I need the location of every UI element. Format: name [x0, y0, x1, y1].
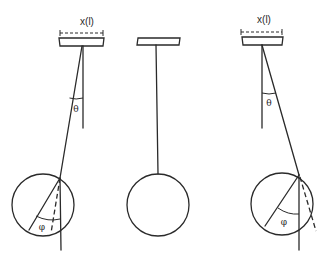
phi-label: φ	[39, 222, 45, 232]
pendulum-bob	[127, 174, 189, 236]
support-bar	[137, 38, 180, 45]
theta-label: θ	[266, 98, 271, 108]
dimension-label: x(l)	[257, 14, 271, 25]
support-bar	[242, 37, 283, 45]
phi-arc	[278, 208, 299, 214]
phi-arc	[36, 216, 60, 220]
vertical-through-bob	[60, 178, 61, 250]
dimension-line	[241, 29, 282, 35]
right-pendulum: x(l) θ φ	[241, 14, 316, 250]
theta-arc	[262, 93, 276, 94]
middle-pendulum	[127, 38, 189, 236]
dimension-line	[60, 30, 103, 36]
left-pendulum: x(l) θ φ	[12, 16, 104, 250]
phi-label: φ	[281, 217, 287, 227]
dimension-label: x(l)	[80, 16, 94, 27]
pendulum-string	[156, 45, 158, 174]
pendulum-diagram: x(l) θ φ	[0, 0, 330, 261]
support-bar	[59, 38, 104, 46]
theta-arc	[70, 98, 84, 99]
theta-label: θ	[73, 104, 78, 114]
pendulum-string	[262, 45, 299, 175]
